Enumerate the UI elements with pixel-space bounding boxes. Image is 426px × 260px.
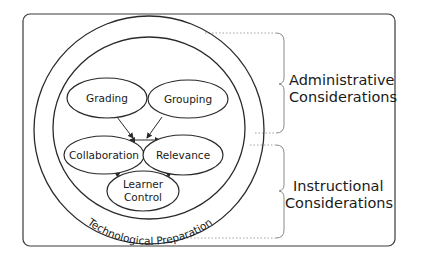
learner-control-label-line1: Learner: [123, 178, 164, 190]
technological-preparation-label: Technological Preparation: [85, 215, 214, 247]
grading-label: Grading: [86, 92, 128, 104]
diagram-canvas: Technological Preparation Grading Groupi…: [0, 0, 426, 260]
node-grouping: Grouping: [148, 80, 228, 118]
collaboration-label: Collaboration: [69, 149, 139, 161]
administrative-considerations-label: Administrative Considerations: [289, 72, 397, 105]
grouping-label: Grouping: [164, 93, 212, 105]
outer-frame: [23, 14, 395, 246]
edge-grouping: [147, 117, 162, 138]
node-collaboration: Collaboration: [64, 136, 144, 174]
node-relevance: Relevance: [143, 135, 223, 175]
edge-grading: [117, 117, 133, 138]
node-learner-control: Learner Control: [107, 171, 179, 211]
learner-control-label-line2: Control: [124, 191, 162, 203]
svg-text:Instructional: Instructional: [293, 178, 384, 194]
instructional-brace: [276, 145, 284, 238]
administrative-brace: [276, 33, 284, 133]
relevance-label: Relevance: [156, 149, 210, 161]
instructional-considerations-label: Instructional Considerations: [285, 178, 393, 211]
svg-text:Considerations: Considerations: [285, 195, 393, 211]
svg-text:Considerations: Considerations: [289, 89, 397, 105]
svg-text:Administrative: Administrative: [289, 72, 395, 88]
node-grading: Grading: [67, 78, 147, 118]
